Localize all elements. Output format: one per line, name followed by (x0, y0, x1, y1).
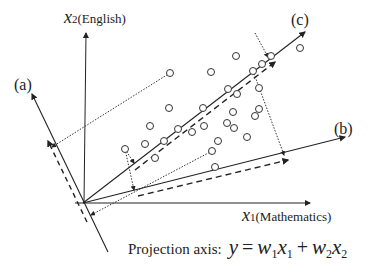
data-point (225, 86, 232, 93)
data-point (166, 105, 173, 112)
data-points (122, 45, 304, 171)
data-point (208, 69, 215, 76)
label-b: (b) (334, 120, 353, 138)
data-point (142, 141, 149, 148)
data-point (230, 109, 237, 116)
x2-axis (84, 33, 86, 203)
data-point (234, 91, 241, 98)
eq-w2: w (312, 235, 326, 259)
projection-diagram (0, 0, 378, 273)
data-point (152, 155, 159, 162)
eq-w1: w (257, 235, 271, 259)
eq-y: y (229, 235, 238, 259)
data-point (231, 125, 238, 132)
eq-plus: + (297, 236, 308, 258)
data-point (256, 106, 263, 113)
data-point (189, 129, 196, 136)
x1-axis-label: x1(Mathematics) (242, 205, 331, 226)
data-point (122, 146, 129, 153)
projection-axis-a-dashed (48, 141, 87, 222)
projection-lines (52, 33, 284, 215)
data-point (175, 126, 182, 133)
data-point (224, 120, 231, 127)
data-point (233, 53, 240, 60)
eq-x2-sub: 2 (341, 247, 347, 261)
data-point (250, 68, 257, 75)
data-point (212, 164, 219, 171)
x2-symbol: x (64, 7, 72, 27)
eq-x2: x (332, 235, 341, 259)
label-a: (a) (14, 76, 32, 94)
data-point (259, 61, 266, 68)
caption-prefix: Projection axis: (128, 241, 222, 257)
eq-x1-sub: 1 (287, 247, 293, 261)
data-point (215, 138, 222, 145)
data-point (268, 53, 275, 60)
x2-axis-label: x2(English) (64, 7, 126, 28)
data-point (244, 134, 251, 141)
data-point (252, 113, 259, 120)
data-point (297, 45, 304, 52)
x1-name: (Mathematics) (256, 209, 332, 224)
data-point (147, 123, 154, 130)
eq-x1: x (277, 235, 286, 259)
data-point (200, 105, 207, 112)
projection-axis-a (32, 94, 108, 252)
data-point (209, 148, 216, 155)
data-point (167, 70, 174, 77)
data-point (201, 123, 208, 130)
x1-symbol: x (242, 205, 250, 225)
eq-equals: = (242, 236, 253, 258)
data-point (256, 85, 263, 92)
data-point (161, 138, 168, 145)
label-c: (c) (291, 11, 309, 29)
x2-name: (English) (78, 11, 126, 26)
projection-equation: Projection axis: y = w1x1 + w2x2 (128, 235, 347, 262)
